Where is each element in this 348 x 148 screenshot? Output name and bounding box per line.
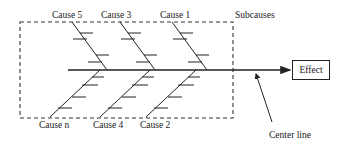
bottom-bones bbox=[50, 70, 200, 117]
subcauses-label: Subcauses bbox=[235, 11, 275, 21]
effect-box: Effect bbox=[292, 60, 330, 80]
cause-5-label: Cause 5 bbox=[52, 11, 82, 21]
effect-label: Effect bbox=[299, 65, 322, 75]
cause-4-label: Cause 4 bbox=[93, 121, 123, 131]
fishbone-diagram: Cause 5 Cause 3 Cause 1 Subcauses Cause … bbox=[0, 0, 348, 148]
cause-n-label: Cause n bbox=[39, 121, 69, 131]
cause-3-label: Cause 3 bbox=[101, 11, 131, 21]
center-line-label: Center line bbox=[269, 131, 311, 141]
cause-1-label: Cause 1 bbox=[160, 11, 190, 21]
top-bones bbox=[72, 22, 209, 70]
center-line-pointer bbox=[256, 74, 272, 122]
cause-2-label: Cause 2 bbox=[140, 121, 170, 131]
